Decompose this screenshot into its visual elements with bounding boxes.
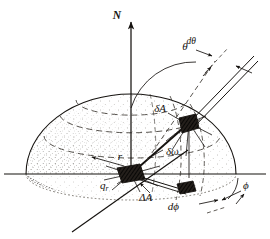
label-radial-flux-subscript: r <box>106 184 109 193</box>
label-north-axis: N <box>112 9 122 21</box>
label-solid-angle: δω <box>166 145 179 157</box>
origin-patch-DeltaA <box>117 164 145 183</box>
label-azimuth-increment: dϕ <box>168 200 180 212</box>
label-surface-element: ΔA <box>138 191 152 203</box>
figure-root: N θ dθ δA δω r qr ΔA ϕ dϕ <box>0 0 270 239</box>
radiation-hemisphere-diagram: N θ dθ δA δω r qr ΔA ϕ dϕ <box>0 0 270 239</box>
label-azimuth-angle: ϕ <box>243 179 249 191</box>
label-sphere-patch: δA <box>154 102 166 114</box>
label-zenith-increment: dθ <box>187 36 197 46</box>
label-radius: r <box>118 150 123 162</box>
